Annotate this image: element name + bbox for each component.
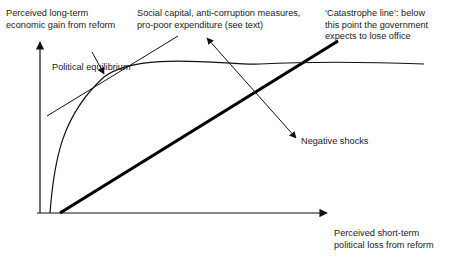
shift-double-arrow — [207, 38, 296, 138]
tangent-line — [47, 36, 178, 116]
shift-up-label: Social capital, anti-corruption measures… — [137, 8, 300, 31]
x-axis-label: Perceived short-term political loss from… — [334, 228, 434, 251]
shift-down-label: Negative shocks — [301, 136, 368, 148]
equilibrium-label: Political equilibrium — [52, 62, 131, 74]
y-axis-label: Perceived long-term economic gain from r… — [6, 8, 115, 31]
catastrophe-label: ‘Catastrophe line’: below this point the… — [325, 8, 428, 43]
